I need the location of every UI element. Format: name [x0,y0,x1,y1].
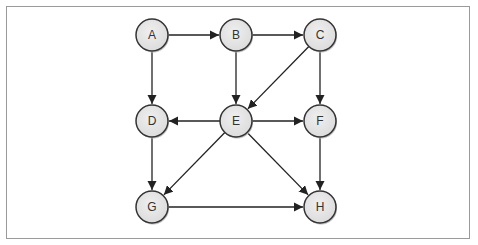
node-d: D [136,105,169,139]
edge-e-to-g [164,132,225,194]
edge-e-to-h [247,132,308,194]
node-g: G [136,191,169,225]
node-c: C [304,19,337,53]
node-label: C [316,28,325,42]
node-label: B [232,28,240,42]
node-label: H [316,200,325,214]
node-f: F [304,105,337,139]
node-label: G [147,200,156,214]
graph-canvas: ABCDEFGH [0,0,478,245]
node-label: F [316,114,323,128]
node-label: D [148,114,157,128]
node-e: E [220,105,253,139]
node-label: A [148,28,156,42]
edge-c-to-e [248,46,309,108]
node-label: E [232,114,240,128]
node-a: A [136,19,169,53]
node-b: B [220,19,253,53]
node-h: H [304,191,337,225]
